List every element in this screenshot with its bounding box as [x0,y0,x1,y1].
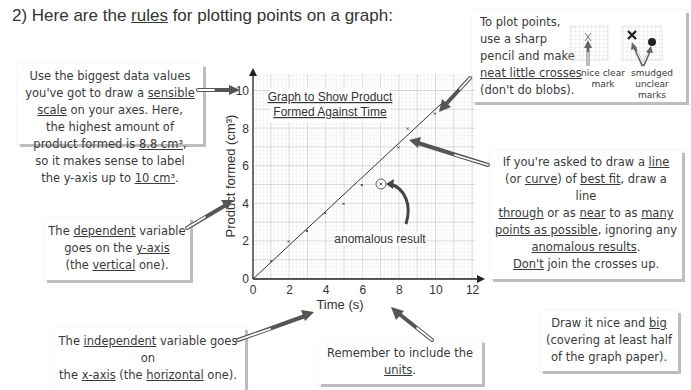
anomalous-label: anomalous result [334,232,426,246]
svg-text:8: 8 [396,283,403,297]
svg-text:8: 8 [242,122,249,136]
svg-text:4: 4 [242,197,249,211]
svg-text:12: 12 [466,283,480,297]
y-axis-arrowhead [249,68,257,76]
anomalous-point [376,179,386,189]
svg-text:2: 2 [286,283,293,297]
chart-title: Graph to Show Product Formed Against Tim… [268,88,393,122]
x-tick-labels: 024 681012 [250,283,480,297]
svg-text:Formed Against Time: Formed Against Time [273,105,387,119]
svg-text:Graph to Show Product: Graph to Show Product [268,90,393,104]
x-axis-arrowhead [477,275,485,283]
smudged-mark-example [622,26,662,66]
y-axis-label: Product formed (cm³) [223,115,238,238]
x-axis-label: Time (s) [316,297,363,312]
svg-text:10: 10 [429,283,443,297]
svg-text:6: 6 [359,283,366,297]
svg-text:0: 0 [250,283,257,297]
svg-text:2: 2 [242,234,249,248]
svg-text:0: 0 [242,272,249,286]
svg-text:6: 6 [242,159,249,173]
svg-text:4: 4 [323,283,330,297]
svg-text:anomalous result: anomalous result [334,232,426,246]
clear-mark-example [570,26,608,66]
